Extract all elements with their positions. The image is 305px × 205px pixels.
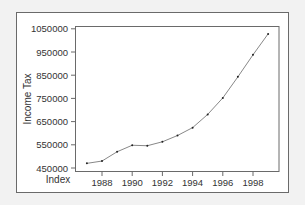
data-point xyxy=(207,113,209,115)
y-tick-label: 450000 xyxy=(36,163,68,174)
income-tax-line-chart: 4500005500006500007500008500009500001050… xyxy=(0,0,305,205)
y-tick-label: 1050000 xyxy=(31,23,68,34)
data-point xyxy=(131,144,133,146)
data-point xyxy=(101,160,103,162)
y-tick-label: 750000 xyxy=(36,93,68,104)
y-tick-label: 850000 xyxy=(36,70,68,81)
data-point xyxy=(267,33,269,35)
y-axis-title: Income Tax xyxy=(22,74,33,125)
x-tick-label: 1998 xyxy=(242,177,263,188)
y-tick-label: 950000 xyxy=(36,47,68,58)
data-point xyxy=(146,145,148,147)
data-point xyxy=(237,76,239,78)
plot-area xyxy=(76,27,280,172)
x-tick-label: 1992 xyxy=(152,177,173,188)
x-tick-label: 1988 xyxy=(91,177,112,188)
data-point xyxy=(161,141,163,143)
x-tick-label: 1990 xyxy=(122,177,143,188)
x-tick-label: 1994 xyxy=(182,177,203,188)
x-axis-title: Index xyxy=(46,174,70,185)
data-point xyxy=(177,135,179,137)
data-point xyxy=(86,162,88,164)
data-point xyxy=(252,54,254,56)
series-line xyxy=(87,34,268,163)
data-point xyxy=(116,151,118,153)
y-tick-label: 650000 xyxy=(36,116,68,127)
data-markers xyxy=(86,33,269,164)
y-tick-label: 550000 xyxy=(36,139,68,150)
x-axis: 198819901992199419961998 xyxy=(91,172,263,189)
x-tick-label: 1996 xyxy=(212,177,233,188)
data-point xyxy=(222,97,224,99)
y-axis: 4500005500006500007500008500009500001050… xyxy=(31,23,75,173)
data-point xyxy=(192,127,194,129)
